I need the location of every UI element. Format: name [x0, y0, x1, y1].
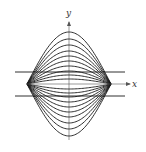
x-axis-label: x	[132, 79, 137, 89]
curve-family-diagram: x y	[0, 0, 146, 152]
y-axis-label: y	[65, 8, 72, 18]
y-axis-arrow-icon	[67, 21, 71, 26]
x-axis-arrow-icon	[126, 82, 131, 86]
